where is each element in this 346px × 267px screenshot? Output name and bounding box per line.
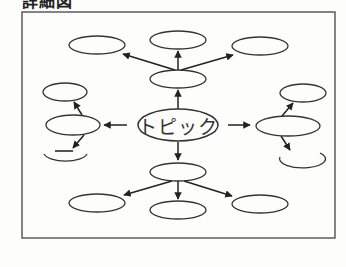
node-top-center	[150, 31, 206, 49]
central-topic-label: トピック	[138, 112, 218, 139]
edge-upper-topright	[181, 55, 233, 70]
node-bottom-right	[232, 195, 288, 213]
edge-lower-bottomleft	[124, 181, 172, 195]
node-right-bottom	[280, 153, 326, 168]
node-right-top	[280, 84, 326, 102]
node-lower-middle	[150, 163, 206, 181]
node-top-right	[232, 37, 288, 55]
node-bottom-center	[150, 201, 206, 219]
node-left-top	[43, 83, 87, 101]
edge-right-rightbottom	[281, 136, 290, 150]
edge-lower-bottomright	[184, 181, 232, 196]
edge-right-righttop	[282, 103, 293, 116]
node-right-middle	[256, 116, 320, 136]
edge-left-lefttop	[74, 102, 82, 115]
node-bottom-left	[69, 194, 125, 212]
node-top-left	[69, 36, 125, 54]
edge-upper-topleft	[123, 54, 175, 70]
node-left-bottom	[44, 154, 87, 161]
node-left-middle	[46, 115, 100, 135]
edge-left-leftbottom	[73, 135, 84, 148]
node-upper-middle	[150, 70, 206, 88]
